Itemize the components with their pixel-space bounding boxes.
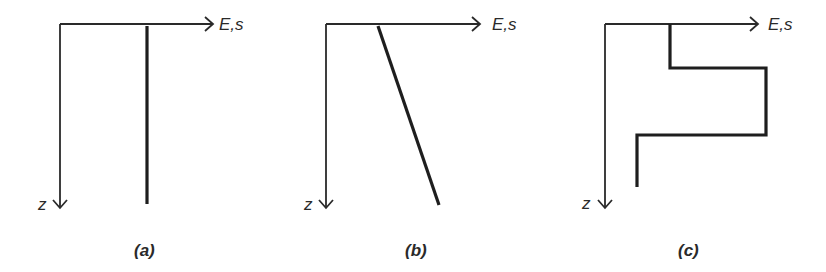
panel-caption: (b) <box>405 241 427 260</box>
z-axis-label: z <box>303 195 313 214</box>
panel-c: E,s z (c) <box>581 15 793 260</box>
panel-a: E,s z (a) <box>37 15 244 260</box>
panel-b: E,s z (b) <box>303 15 517 260</box>
figure-canvas: E,s z (a) E,s z (b) E,s z (c) <box>0 0 826 272</box>
profile-line <box>637 24 766 187</box>
z-axis-label: z <box>581 194 591 213</box>
x-axis-label: E,s <box>492 15 517 34</box>
z-axis-label: z <box>37 195 47 214</box>
panel-caption: (a) <box>134 241 155 260</box>
x-axis-label: E,s <box>219 15 244 34</box>
x-axis-label: E,s <box>768 15 793 34</box>
profile-line <box>378 26 439 205</box>
panel-caption: (c) <box>678 241 699 260</box>
